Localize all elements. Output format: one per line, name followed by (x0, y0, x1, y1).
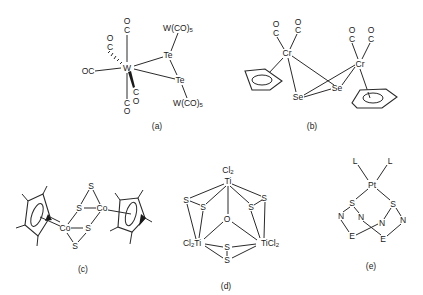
atom-S: S (248, 202, 254, 212)
group-TiCl2: TiCl2 (261, 238, 280, 248)
atom-S: S (85, 223, 91, 233)
atom-Cr: Cr (356, 59, 365, 69)
group-Cl2: Cl2 (222, 165, 234, 175)
atom-L: L (388, 156, 393, 166)
atom-C: C (349, 34, 355, 44)
atom-Te: Te (164, 50, 173, 60)
pentamethylcyclopentadienyl-ring (25, 194, 50, 236)
atom-Co: Co (97, 203, 108, 213)
cyclopentadienyl-ring (352, 89, 397, 108)
atom-S: S (76, 203, 82, 213)
atom-N: N (358, 212, 364, 222)
atom-Pt: Pt (368, 180, 377, 190)
structure-c: S S Co Co S S (c) (16, 181, 152, 274)
atom-Se: Se (293, 92, 304, 102)
atom-S: S (224, 242, 230, 252)
group-Cl2Ti: Cl2Ti (183, 238, 201, 248)
atom-O: O (133, 96, 140, 106)
atom-Cr: Cr (283, 48, 292, 58)
panel-label-b: (b) (307, 121, 318, 131)
atom-Se: Se (332, 83, 343, 93)
atom-E: E (349, 231, 355, 241)
structure-e: L L Pt S S N N N N E E (e) (338, 156, 406, 271)
panel-label-d: (d) (221, 281, 232, 291)
atom-S: S (349, 198, 355, 208)
atom-C: C (273, 28, 279, 38)
group-WCO5: W(CO)5 (163, 23, 193, 33)
atom-S: S (183, 195, 189, 205)
atom-E: E (380, 234, 386, 244)
atom-N: N (338, 211, 344, 221)
atom-Co: Co (60, 223, 71, 233)
chemical-structures-figure: W O C O C OC C O C O Te Te W(CO)5 W(CO)5… (0, 0, 423, 295)
atom-C: C (107, 42, 113, 52)
atom-O: O (124, 106, 131, 116)
group-WCO5: W(CO)5 (173, 98, 203, 108)
atom-Ti: Ti (225, 176, 232, 186)
panel-label-a: (a) (152, 121, 163, 131)
cyclopentadienyl-ring (245, 69, 282, 90)
structure-b: O C O C Cr Se Se O C O C Cr (b) (245, 17, 397, 131)
atom-S: S (72, 241, 78, 251)
atom-S: S (390, 199, 396, 209)
atom-S: S (261, 193, 267, 203)
panel-label-e: (e) (366, 261, 377, 271)
hashed-bond (108, 51, 122, 64)
atom-S: S (88, 181, 94, 191)
atom-Te: Te (176, 75, 185, 85)
atom-C: C (295, 25, 301, 35)
atom-N: N (379, 218, 385, 228)
atom-OC: OC (82, 66, 95, 76)
wedge-bond (128, 71, 135, 88)
atom-C: C (124, 25, 130, 35)
atom-S: S (224, 255, 230, 265)
atom-O: O (224, 214, 231, 224)
atom-L: L (353, 156, 358, 166)
panel-label-c: (c) (78, 264, 88, 274)
atom-W: W (123, 63, 131, 73)
structure-a: W O C O C OC C O C O Te Te W(CO)5 W(CO)5… (82, 16, 204, 131)
atom-C: C (368, 34, 374, 44)
structure-d: Cl2 Ti S S S S O Cl2Ti TiCl2 S S (d) (183, 165, 280, 291)
atom-S: S (200, 202, 206, 212)
atom-N: N (400, 215, 406, 225)
